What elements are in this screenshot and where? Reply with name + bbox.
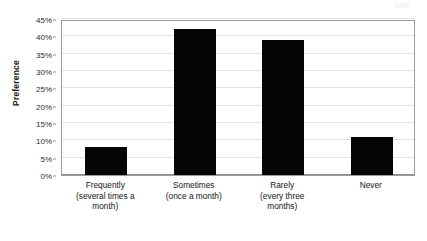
y-axis-tick-label: 5% bbox=[40, 154, 52, 163]
y-axis-tick-mark bbox=[53, 124, 56, 125]
bars-layer bbox=[62, 21, 414, 175]
y-axis-tick-label: 40% bbox=[36, 33, 52, 42]
y-axis-tick-label: 35% bbox=[36, 50, 52, 59]
x-axis-tick-label: Rarely(every threemonths) bbox=[238, 180, 327, 212]
x-axis-tick-label-line: Frequently bbox=[61, 180, 150, 191]
y-axis-tick-mark bbox=[53, 141, 56, 142]
x-axis-tick-label-line: Rarely bbox=[238, 180, 327, 191]
y-axis-tick-mark bbox=[53, 106, 56, 107]
x-axis-tick-label-line: month) bbox=[61, 201, 150, 212]
y-axis-tick-mark bbox=[53, 54, 56, 55]
x-axis-tick-label-line: (several times a bbox=[61, 191, 150, 202]
y-axis-tick-mark bbox=[53, 89, 56, 90]
x-axis-tick-label: Sometimes(once a month) bbox=[150, 180, 239, 201]
y-axis-tick-label: 10% bbox=[36, 137, 52, 146]
bar bbox=[262, 40, 304, 175]
x-axis-tick-label-line: months) bbox=[238, 201, 327, 212]
y-axis-tick-mark bbox=[53, 37, 56, 38]
x-axis-tick-label-line: (every three bbox=[238, 191, 327, 202]
y-axis-tick-mark bbox=[53, 72, 56, 73]
y-axis-tick-label: 45% bbox=[36, 16, 52, 25]
x-axis-tick-label-line: (once a month) bbox=[150, 191, 239, 202]
bar bbox=[174, 29, 216, 175]
gridline bbox=[62, 18, 414, 19]
x-axis-tick-labels: Frequently(several times amonth)Sometime… bbox=[61, 180, 415, 238]
x-axis-tick-label-line: Never bbox=[327, 180, 416, 191]
y-axis-tick-labels: 0%5%10%15%20%25%30%35%40%45% bbox=[0, 20, 56, 176]
y-axis-tick-mark bbox=[53, 158, 56, 159]
y-axis-tick-label: 25% bbox=[36, 85, 52, 94]
x-axis-tick-label: Frequently(several times amonth) bbox=[61, 180, 150, 212]
scan-artifact bbox=[395, 3, 409, 8]
x-axis-tick-label-line: Sometimes bbox=[150, 180, 239, 191]
plot-area bbox=[61, 20, 415, 176]
y-axis-tick-mark bbox=[53, 176, 56, 177]
x-axis-tick-label: Never bbox=[327, 180, 416, 191]
y-axis-tick-label: 30% bbox=[36, 68, 52, 77]
y-axis-tick-mark bbox=[53, 20, 56, 21]
bar bbox=[85, 147, 127, 175]
y-axis-tick-label: 15% bbox=[36, 120, 52, 129]
bar bbox=[351, 137, 393, 175]
bar-chart: Preference 0%5%10%15%20%25%30%35%40%45% … bbox=[0, 0, 427, 241]
y-axis-tick-label: 0% bbox=[40, 172, 52, 181]
y-axis-tick-label: 20% bbox=[36, 102, 52, 111]
